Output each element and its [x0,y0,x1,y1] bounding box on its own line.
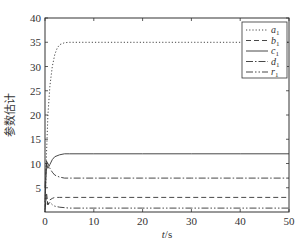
y-tick-label: 5 [36,182,42,194]
x-tick-label: 50 [284,215,296,227]
y-tick-label: 35 [30,36,42,48]
y-axis-label: 参数估计 [3,93,16,137]
series-b1-line [45,193,289,208]
series-r1-line [45,197,289,209]
legend-box [242,22,287,78]
x-axis-label: t/s [162,228,172,240]
x-tick-label: 40 [235,215,247,227]
y-tick-label: 20 [30,109,42,121]
y-tick-label: 15 [30,133,42,145]
legend: a1b1c1d1r1 [242,22,287,79]
series-d1-line [45,161,289,188]
x-tick-label: 0 [42,215,48,227]
y-tick-label: 25 [30,85,42,97]
line-chart: 01020304050510152025303540 a1b1c1d1r1 参数… [0,0,305,247]
x-tick-label: 20 [137,215,149,227]
x-tick-label: 30 [186,215,198,227]
x-tick-label: 10 [88,215,100,227]
y-tick-label: 40 [30,12,42,24]
x-axis-label-unit: /s [165,228,172,240]
y-tick-label: 30 [30,61,42,73]
y-tick-label: 10 [30,158,42,170]
